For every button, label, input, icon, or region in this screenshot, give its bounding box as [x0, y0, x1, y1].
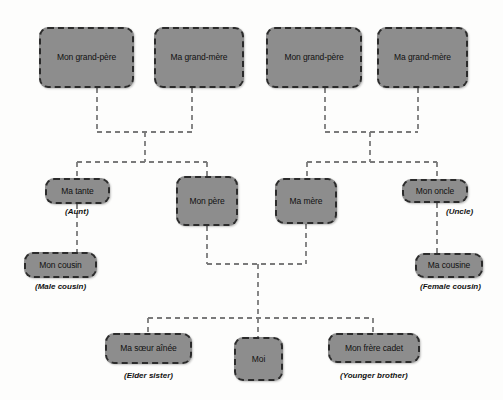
- node-maternal-grandfather[interactable]: Mon grand-père: [266, 27, 362, 88]
- node-label-maternal-grandfather: Mon grand-père: [268, 52, 360, 62]
- female-cousin-caption: (Female cousin): [420, 282, 481, 291]
- node-paternal-grandmother[interactable]: Ma grand-mère: [154, 27, 244, 88]
- node-maternal-grandmother[interactable]: Ma grand-mère: [377, 27, 468, 88]
- node-label-aunt: Ma tante: [47, 186, 108, 196]
- node-label-male-cousin: Mon cousin: [26, 260, 95, 270]
- younger-brother-caption: (Younger brother): [340, 371, 408, 380]
- elder-sister-caption: (Elder sister): [124, 371, 173, 380]
- node-label-elder-sister: Ma sœur aînée: [107, 343, 190, 353]
- node-male-cousin[interactable]: Mon cousin: [24, 252, 97, 278]
- node-self[interactable]: Moi: [234, 337, 283, 381]
- node-female-cousin[interactable]: Ma cousine: [415, 253, 483, 278]
- node-elder-sister[interactable]: Ma sœur aînée: [105, 333, 192, 364]
- node-younger-brother[interactable]: Mon frère cadet: [328, 333, 420, 363]
- node-mother[interactable]: Ma mère: [275, 178, 337, 224]
- node-label-father: Mon père: [178, 196, 236, 206]
- male-cousin-caption: (Male cousin): [35, 282, 86, 291]
- node-label-younger-brother: Mon frère cadet: [330, 343, 418, 353]
- node-label-paternal-grandmother: Ma grand-mère: [156, 52, 242, 62]
- node-father[interactable]: Mon père: [176, 176, 238, 226]
- node-aunt[interactable]: Ma tante: [45, 178, 110, 204]
- node-label-uncle: Mon oncle: [404, 186, 466, 196]
- node-label-paternal-grandfather: Mon grand-père: [41, 52, 132, 62]
- node-label-self: Moi: [236, 354, 281, 364]
- aunt-caption: (Aunt): [65, 207, 89, 216]
- node-paternal-grandfather[interactable]: Mon grand-père: [39, 27, 134, 88]
- node-label-female-cousin: Ma cousine: [417, 260, 481, 270]
- node-label-mother: Ma mère: [277, 196, 335, 206]
- node-label-maternal-grandmother: Ma grand-mère: [379, 52, 466, 62]
- node-uncle[interactable]: Mon oncle: [402, 179, 468, 203]
- uncle-caption: (Uncle): [446, 207, 473, 216]
- family-tree-diagram: Mon grand-pèreMa grand-mèreMon grand-pèr…: [0, 0, 503, 400]
